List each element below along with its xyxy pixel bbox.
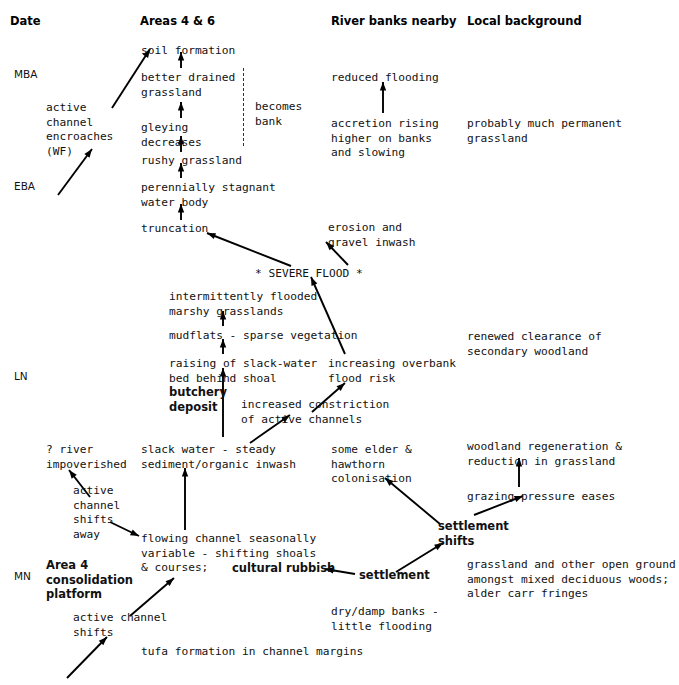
node-settlement-shifts: settlement shifts [438, 519, 509, 548]
era-label-eba: EBA [14, 180, 35, 193]
node-renewed-clearance: renewed clearance of secondary woodland [467, 330, 602, 359]
node-becomes-bank: becomes bank [255, 100, 302, 129]
node-better-drained: better drained grassland [141, 71, 235, 100]
node-active-channel-shifts-low: active channel shifts [73, 611, 167, 640]
node-perennially-stagnant: perennially stagnant water body [141, 181, 276, 210]
node-increasing-overbank: increasing overbank flood risk [328, 357, 456, 386]
node-truncation: truncation [141, 222, 208, 237]
node-some-elder-hawthorn: some elder & hawthorn colonisation [331, 443, 412, 487]
arrow-flood-to-truncation [207, 233, 291, 266]
node-erosion-gravel-inwash: erosion and gravel inwash [328, 221, 416, 250]
node-soil-formation: soil formation [141, 44, 235, 59]
node-settlement: settlement [359, 568, 430, 583]
column-header-banks: River banks nearby [331, 14, 457, 28]
node-gleying-decreases: gleying decreases [141, 121, 202, 150]
arrow-accretion-to-reducedflood [380, 82, 386, 113]
node-mudflats: mudflats - sparse vegetation [169, 329, 358, 344]
node-woodland-regeneration: woodland regeneration & reduction in gra… [467, 440, 622, 469]
column-header-local: Local background [467, 14, 582, 28]
arrow-gleying-to-betterdrained [178, 102, 184, 118]
node-area4-consolidation: Area 4 consolidation platform [46, 558, 133, 602]
node-intermittently-flooded: intermittently flooded marshy grasslands [169, 290, 317, 319]
node-accretion-rising: accretion rising higher on banks and slo… [331, 117, 439, 161]
dashed-divider [243, 68, 244, 146]
node-slack-water-steady: slack water - steady sediment/organic in… [141, 443, 296, 472]
era-label-ln: LN [14, 370, 28, 383]
node-raising-slack-water: raising of slack-water bed behind shoal [169, 357, 317, 386]
node-rushy-grassland: rushy grassland [141, 154, 242, 169]
era-label-mn: MN [14, 570, 31, 583]
node-tufa-formation: tufa formation in channel margins [141, 645, 363, 660]
node-grazing-pressure-eases: grazing pressure eases [467, 490, 615, 505]
node-cultural-rubbish: cultural rubbish [232, 561, 335, 576]
era-label-mba: MBA [14, 68, 37, 81]
node-severe-flood: * SEVERE FLOOD * [255, 267, 363, 282]
flow-diagram-canvas: DateAreas 4 & 6River banks nearbyLocal b… [0, 0, 679, 685]
node-reduced-flooding: reduced flooding [331, 71, 439, 86]
node-probably-much-permanent: probably much permanent grassland [467, 117, 622, 146]
node-river-impoverished: ? river impoverished [46, 443, 127, 472]
column-header-date: Date [10, 14, 41, 28]
node-butchery-deposit: butchery deposit [169, 385, 227, 414]
node-active-channel-encroaches: active channel encroaches (WF) [46, 101, 113, 159]
node-grassland-other-open: grassland and other open ground amongst … [467, 558, 676, 602]
node-active-channel-shifts-away: active channel shifts away [73, 484, 120, 542]
node-increased-constriction: increased constriction of active channel… [241, 398, 389, 427]
column-header-areas46: Areas 4 & 6 [140, 14, 215, 28]
node-dry-damp-banks: dry/damp banks - little flooding [331, 605, 439, 634]
arrow-lower-to-activeshifts [67, 637, 107, 678]
arrow-flowing-to-slackwater [182, 468, 188, 530]
